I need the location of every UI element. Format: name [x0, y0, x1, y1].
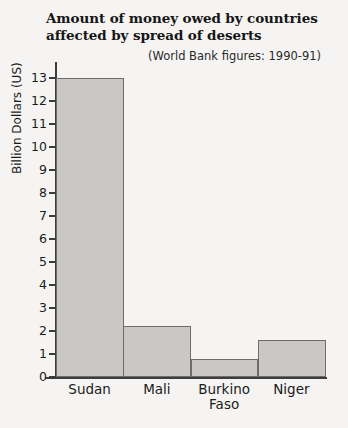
y-tick-mark — [49, 77, 55, 78]
x-axis-line — [46, 377, 327, 379]
bar-chart-figure: Amount of money owed by countries affect… — [0, 0, 348, 428]
y-tick-mark — [49, 307, 55, 308]
plot-area — [56, 64, 325, 377]
y-tick-mark — [49, 100, 55, 101]
bar-niger — [258, 340, 326, 377]
y-tick-mark — [49, 169, 55, 170]
y-tick-label: 11 — [31, 118, 47, 131]
y-tick-mark — [49, 192, 55, 193]
bar-mali — [123, 326, 191, 377]
y-tick-label: 6 — [39, 233, 47, 246]
y-tick-label: 10 — [31, 141, 47, 154]
chart-title-line-1: Amount of money owed by countries — [46, 10, 318, 26]
chart-title-line-2: affected by spread of deserts — [46, 27, 326, 44]
y-tick-mark — [49, 215, 55, 216]
y-tick-label: 4 — [39, 279, 47, 292]
x-category-label: Niger — [248, 382, 335, 397]
chart-title: Amount of money owed by countries affect… — [46, 10, 326, 44]
y-tick-label: 7 — [39, 210, 47, 223]
y-tick-mark — [49, 330, 55, 331]
y-tick-mark — [49, 284, 55, 285]
y-tick-label: 9 — [39, 164, 47, 177]
y-tick-mark — [49, 376, 55, 377]
y-tick-label: 5 — [39, 256, 47, 269]
y-tick-label: 3 — [39, 302, 47, 315]
y-tick-label: 2 — [39, 325, 47, 338]
y-tick-mark — [49, 123, 55, 124]
source-annotation: (World Bank figures: 1990-91) — [148, 49, 321, 63]
y-tick-mark — [49, 146, 55, 147]
y-tick-label: 13 — [31, 72, 47, 85]
bar-burkino-faso — [191, 359, 259, 377]
y-tick-label: 1 — [39, 348, 47, 361]
y-tick-mark — [49, 353, 55, 354]
y-tick-mark — [49, 238, 55, 239]
y-axis-title: Billion Dollars (US) — [10, 156, 24, 174]
bar-sudan — [56, 78, 124, 377]
y-tick-mark — [49, 261, 55, 262]
y-tick-label: 12 — [31, 95, 47, 108]
y-tick-label: 8 — [39, 187, 47, 200]
